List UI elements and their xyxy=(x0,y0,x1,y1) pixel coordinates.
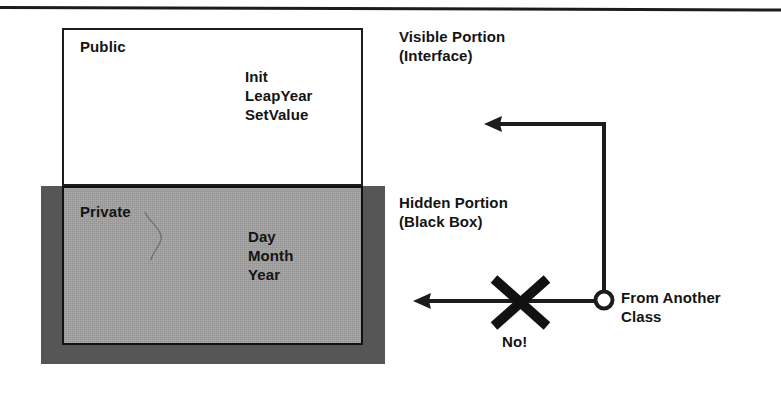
origin-node-circle xyxy=(596,292,613,309)
diagram-canvas: Public Init LeapYear SetValue Private Da… xyxy=(0,0,781,406)
prohibition-x-icon xyxy=(494,279,547,326)
private-section-label: Private xyxy=(80,203,131,222)
no-label: No! xyxy=(502,333,527,352)
forbidden-access-arrow xyxy=(413,293,596,309)
public-section-label: Public xyxy=(80,38,126,57)
top-divider-rule xyxy=(0,6,781,11)
public-members-list: Init LeapYear SetValue xyxy=(245,68,313,125)
hidden-portion-annotation: Hidden Portion (Black Box) xyxy=(399,194,508,232)
from-another-class-label: From Another Class xyxy=(621,289,721,327)
visible-portion-annotation: Visible Portion (Interface) xyxy=(399,28,505,66)
private-members-list: Day Month Year xyxy=(248,228,293,285)
